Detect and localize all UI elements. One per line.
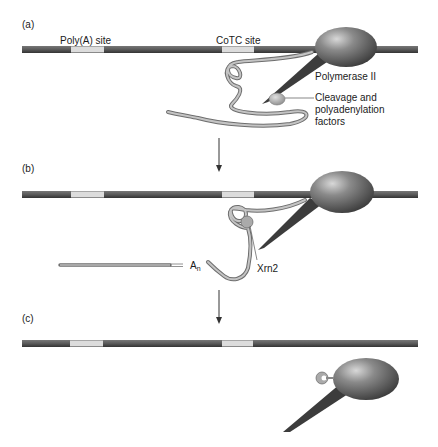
panel-b: (b) An Xrn2 — [22, 163, 418, 279]
cleavage-factor — [269, 93, 285, 105]
polya-site-label: Poly(A) site — [60, 35, 112, 46]
xrn2-label: Xrn2 — [257, 263, 279, 274]
polymerase-stem — [283, 384, 348, 432]
rna-polymerase-termination-diagram: (a) Poly(A) site CoTC site Polymerase II… — [0, 0, 438, 447]
polya-site-box — [71, 192, 104, 198]
polya-tail-label: An — [190, 260, 201, 272]
cotc-site-box — [222, 47, 254, 53]
panel-a-label: (a) — [22, 19, 34, 30]
panel-a: (a) Poly(A) site CoTC site Polymerase II… — [22, 19, 418, 127]
factors-label-3: factors — [315, 116, 345, 127]
arrow-b-to-c — [216, 290, 222, 324]
panel-c-label: (c) — [22, 313, 34, 324]
polya-site-box — [70, 341, 103, 347]
panel-b-label: (b) — [22, 163, 34, 174]
cotc-site-box — [222, 192, 254, 198]
polymerase-ii — [310, 171, 374, 213]
cotc-site-box — [222, 341, 253, 347]
factors-label-2: polyadenylation — [315, 104, 385, 115]
cotc-site-label: CoTC site — [216, 35, 261, 46]
factors-label-1: Cleavage and — [315, 92, 377, 103]
polymerase-label: Polymerase II — [315, 71, 376, 82]
arrow-a-to-b — [216, 138, 222, 172]
polya-site-box — [71, 47, 104, 53]
released-polymerase-ii — [333, 358, 399, 400]
polymerase-ii — [315, 27, 377, 67]
panel-c: (c) — [22, 313, 418, 432]
xrn2-exonuclease — [241, 216, 253, 228]
